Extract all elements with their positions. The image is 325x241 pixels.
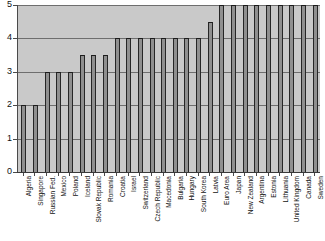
x-axis-label: United Kingdom	[293, 176, 300, 222]
x-axis-label: Macedonia	[165, 176, 172, 208]
bar	[278, 5, 283, 172]
x-axis-labels: AlgeriaSingaporeRussian Fed.MexicoPoland…	[0, 176, 325, 241]
x-axis-label: Estonia	[270, 176, 277, 198]
y-tick-label: 0	[0, 167, 12, 176]
x-axis-label: Hungary	[188, 176, 195, 201]
x-axis-label: Israel	[130, 176, 137, 192]
bar	[68, 72, 73, 172]
x-axis-label: Poland	[72, 176, 79, 196]
bar	[219, 5, 224, 172]
bar	[196, 38, 201, 172]
bar	[266, 5, 271, 172]
y-tick-label: 5	[0, 0, 12, 9]
x-axis-label: Sweden	[317, 176, 324, 200]
bar	[21, 105, 26, 172]
bar	[103, 55, 108, 172]
y-tick-4	[13, 38, 17, 39]
y-tick-1	[13, 139, 17, 140]
x-axis-line	[17, 172, 320, 173]
x-axis-label: Bulgaria	[177, 176, 184, 200]
x-axis-label: Romania	[107, 176, 114, 202]
bar	[150, 38, 155, 172]
x-axis-label: Czech Republic	[154, 176, 161, 222]
y-tick-3	[13, 72, 17, 73]
x-axis-label: Mexico	[60, 176, 67, 197]
y-tick-2	[13, 105, 17, 106]
x-axis-label: Canada	[305, 176, 312, 199]
bar	[301, 5, 306, 172]
x-axis-label: Argentina	[258, 176, 265, 204]
bar	[115, 38, 120, 172]
bar	[33, 105, 38, 172]
bar	[208, 22, 213, 172]
bar	[243, 5, 248, 172]
bar	[289, 5, 294, 172]
bar	[126, 38, 131, 172]
y-tick-label: 4	[0, 33, 12, 42]
y-tick-label: 1	[0, 134, 12, 143]
bar	[254, 5, 259, 172]
bar	[173, 38, 178, 172]
bar	[80, 55, 85, 172]
x-axis-label: Iceland	[84, 176, 91, 197]
x-axis-label: South Korea	[200, 176, 207, 212]
bar	[231, 5, 236, 172]
x-axis-label: Latvia	[212, 176, 219, 193]
y-tick-label: 3	[0, 67, 12, 76]
bar	[45, 72, 50, 172]
x-axis-label: Japan	[235, 176, 242, 194]
bar-chart: 012345 AlgeriaSingaporeRussian Fed.Mexic…	[0, 0, 325, 241]
bar	[184, 38, 189, 172]
x-axis-label: Algeria	[25, 176, 32, 196]
x-axis-label: Lithuania	[282, 176, 289, 202]
bar	[138, 38, 143, 172]
bars-container	[18, 5, 320, 172]
x-axis-label: Croatia	[119, 176, 126, 197]
y-tick-5	[13, 5, 17, 6]
x-axis-label: Euro Area	[223, 176, 230, 205]
plot-area	[17, 5, 320, 172]
y-tick-label: 2	[0, 100, 12, 109]
bar	[56, 72, 61, 172]
bar	[161, 38, 166, 172]
x-axis-label: Russian Fed.	[49, 176, 56, 214]
x-axis-label: Slovak Republic	[95, 176, 102, 223]
bar	[313, 5, 318, 172]
bar	[91, 55, 96, 172]
x-axis-label: Switzerland	[142, 176, 149, 210]
x-axis-label: Singapore	[37, 176, 44, 206]
x-axis-label: New Zealand	[247, 176, 254, 214]
